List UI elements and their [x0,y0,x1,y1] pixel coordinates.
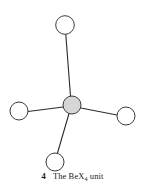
central-atom-beryllium [63,96,81,114]
figure-caption: 4The BeX4 unit [0,171,145,185]
ligand-atom-bottom [46,153,64,171]
figure-container: 4The BeX4 unit [0,0,145,189]
ligand-atom-right [117,107,135,125]
figure-caption-number: 4 [42,171,46,181]
ligand-atom-left [10,102,28,120]
ligand-atom-top [56,16,75,35]
bex4-structure-diagram [0,0,145,175]
figure-caption-text-before: The BeX [53,171,85,181]
figure-caption-text-after: unit [88,171,104,181]
